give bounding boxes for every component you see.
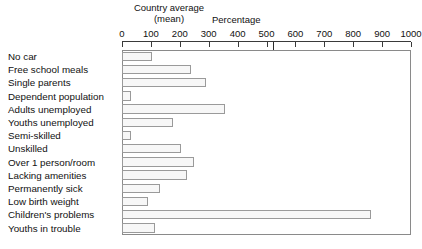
category-label: Single parents bbox=[8, 76, 71, 89]
bar-track bbox=[122, 90, 411, 103]
bar-row: Free school meals bbox=[0, 63, 421, 76]
x-tick-label: 700 bbox=[316, 28, 332, 39]
category-label: Youths unemployed bbox=[8, 116, 94, 129]
bar bbox=[122, 184, 160, 194]
category-label: Children's problems bbox=[8, 208, 94, 221]
bar-rows: No carFree school mealsSingle parentsDep… bbox=[0, 50, 421, 235]
bar-row: Lacking amenities bbox=[0, 169, 421, 182]
x-tick-mark bbox=[353, 42, 354, 47]
x-tick-label: 900 bbox=[374, 28, 390, 39]
bar-row: Low birth weight bbox=[0, 195, 421, 208]
country-average-line2: (mean) bbox=[120, 13, 218, 24]
bar-row: Single parents bbox=[0, 76, 421, 89]
country-average-annotation: Country average (mean) bbox=[120, 2, 218, 24]
bar bbox=[122, 65, 191, 75]
category-label: Lacking amenities bbox=[8, 169, 86, 182]
bar bbox=[122, 210, 371, 220]
x-tick-label: 500 bbox=[259, 28, 275, 39]
bar-track bbox=[122, 142, 411, 155]
bar-track bbox=[122, 103, 411, 116]
bar bbox=[122, 223, 155, 233]
bar-row: Adults unemployed bbox=[0, 103, 421, 116]
category-label: Unskilled bbox=[8, 142, 48, 155]
bar bbox=[122, 104, 225, 114]
bar-row: Youths in trouble bbox=[0, 222, 421, 235]
x-tick-label: 1000 bbox=[400, 28, 421, 39]
x-tick-mark bbox=[295, 42, 296, 47]
x-tick-mark bbox=[382, 42, 383, 47]
bar-track bbox=[122, 116, 411, 129]
x-tick-mark bbox=[411, 42, 412, 47]
bar-track bbox=[122, 195, 411, 208]
axis-title-percentage: Percentage bbox=[212, 14, 261, 25]
x-tick-label: 600 bbox=[287, 28, 303, 39]
bar-row: Children's problems bbox=[0, 208, 421, 221]
x-tick-mark bbox=[209, 42, 210, 47]
bar bbox=[122, 118, 173, 128]
category-label: Free school meals bbox=[8, 63, 88, 76]
category-label: Over 1 person/room bbox=[8, 156, 95, 169]
bar-track bbox=[122, 129, 411, 142]
bar-row: Semi-skilled bbox=[0, 129, 421, 142]
bar-row: Permanently sick bbox=[0, 182, 421, 195]
bar-row: Dependent population bbox=[0, 90, 421, 103]
bar-track bbox=[122, 156, 411, 169]
x-tick-label: 200 bbox=[172, 28, 188, 39]
bar bbox=[122, 78, 206, 88]
x-tick-mark bbox=[267, 42, 268, 47]
bar-track bbox=[122, 76, 411, 89]
bar-row: Youths unemployed bbox=[0, 116, 421, 129]
bar-track bbox=[122, 222, 411, 235]
x-tick-mark bbox=[238, 42, 239, 47]
bar-track bbox=[122, 63, 411, 76]
bar bbox=[122, 144, 181, 154]
bar-row: Over 1 person/room bbox=[0, 156, 421, 169]
x-tick-mark bbox=[324, 42, 325, 47]
bar-row: Unskilled bbox=[0, 142, 421, 155]
country-average-line1: Country average bbox=[120, 2, 218, 13]
x-tick-label: 0 bbox=[119, 28, 124, 39]
category-label: No car bbox=[8, 50, 37, 63]
x-tick-mark bbox=[122, 42, 123, 47]
bar bbox=[122, 170, 187, 180]
x-tick-label: 100 bbox=[143, 28, 159, 39]
bar bbox=[122, 131, 131, 141]
bar-track bbox=[122, 50, 411, 63]
x-axis-tick-labels: 01002003004005006007008009001000 bbox=[122, 28, 411, 40]
x-tick-label: 800 bbox=[345, 28, 361, 39]
category-label: Semi-skilled bbox=[8, 129, 61, 142]
x-tick-label: 300 bbox=[201, 28, 217, 39]
bar-row: No car bbox=[0, 50, 421, 63]
bar bbox=[122, 157, 194, 167]
category-label: Youths in trouble bbox=[8, 222, 81, 235]
x-tick-mark bbox=[151, 42, 152, 47]
category-label: Adults unemployed bbox=[8, 103, 91, 116]
bar bbox=[122, 91, 131, 101]
bar-track bbox=[122, 208, 411, 221]
bar-track bbox=[122, 169, 411, 182]
category-label: Permanently sick bbox=[8, 182, 83, 195]
x-tick-mark bbox=[180, 42, 181, 47]
category-label: Dependent population bbox=[8, 90, 104, 103]
x-axis: 01002003004005006007008009001000 bbox=[122, 28, 411, 50]
bar bbox=[122, 52, 152, 62]
bar-track bbox=[122, 182, 411, 195]
category-label: Low birth weight bbox=[8, 195, 79, 208]
x-tick-label: 400 bbox=[230, 28, 246, 39]
bar bbox=[122, 197, 148, 207]
